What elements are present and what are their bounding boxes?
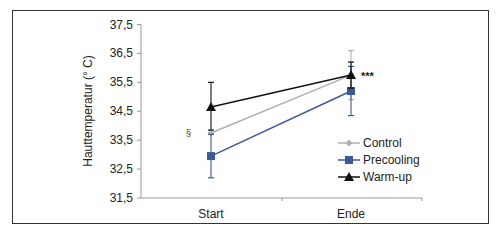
x-category-label: Start [198,207,224,221]
y-tick-label: 34,5 [110,104,134,118]
y-tick-label: 33,5 [110,133,134,147]
y-tick-label: 31,5 [110,191,134,205]
y-tick-label: 35,5 [110,75,134,89]
significance-section-annotation: § [186,128,191,138]
y-axis-label: Hauttemperatur (° C) [81,55,95,167]
legend-item-warm-up: Warm-up [363,170,412,184]
y-tick-label: 32,5 [110,162,134,176]
legend: ControlPrecoolingWarm-up [338,136,420,184]
y-tick-label: 37,5 [110,18,134,32]
series-warm-up [206,62,356,130]
legend-item-precooling: Precooling [363,153,420,167]
legend-item-control: Control [363,136,402,150]
y-tick-label: 36,5 [110,46,134,60]
significance-stars-annotation: *** [361,70,375,82]
line-chart: 31,532,533,534,535,536,537,5StartEndeHau… [0,0,502,237]
x-category-label: Ende [337,207,365,221]
